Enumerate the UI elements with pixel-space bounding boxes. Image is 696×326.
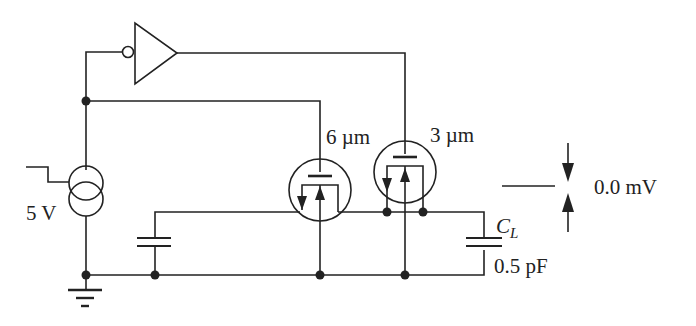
capacitor-left <box>137 212 300 275</box>
ground-icon <box>68 275 102 306</box>
inverter-input-wire <box>86 52 122 101</box>
arrow-icon <box>297 196 307 210</box>
source-label: 5 V <box>26 201 57 225</box>
transistor-6um <box>289 159 351 275</box>
junction-dot <box>419 208 428 217</box>
load-capacitor <box>466 238 502 246</box>
junction-dot <box>82 271 91 280</box>
transistor-right-label: 3 µm <box>430 123 474 147</box>
junction-dot <box>151 271 160 280</box>
arrow-icon <box>400 168 410 182</box>
gate-wire-left <box>86 101 320 172</box>
circuit-diagram: 5 V 6 µm 3 µm CL 0.5 pF 0.0 mV <box>0 0 696 326</box>
output-node-wire <box>338 212 484 238</box>
ground-rail <box>86 250 484 275</box>
readout-value: 0.0 mV <box>594 175 657 199</box>
inverter-output-wire <box>177 53 405 154</box>
junction-dot <box>383 208 392 217</box>
transistor-left-label: 6 µm <box>326 125 370 149</box>
arrow-up-icon <box>562 193 574 212</box>
junction-dot <box>82 97 91 106</box>
arrow-down-icon <box>562 163 574 182</box>
arrow-icon <box>382 178 392 192</box>
junction-dot <box>401 271 410 280</box>
load-cap-name: CL <box>496 214 518 241</box>
load-cap-value: 0.5 pF <box>494 254 548 278</box>
step-waveform-icon <box>26 167 69 182</box>
voltage-source <box>69 166 103 216</box>
transistor-3um <box>374 141 436 275</box>
inverter <box>123 23 178 84</box>
junction-dot <box>316 271 325 280</box>
arrow-icon <box>315 186 325 200</box>
